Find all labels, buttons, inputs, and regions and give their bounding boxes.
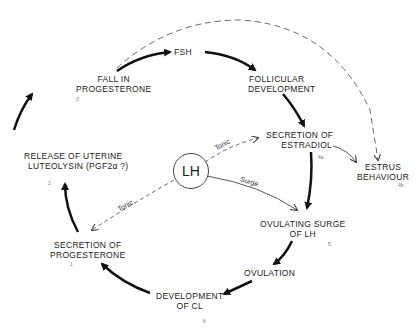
arrow-progesterone-to-luteolysin: [65, 184, 78, 232]
node-ovulation-label: OVULATION: [244, 268, 295, 278]
estradiol-to-estrus: [333, 146, 356, 162]
node-development-of-cl: DEVELOPMENT OF CL: [156, 291, 224, 311]
node-follicular-line2: DEVELOPMENT: [238, 84, 316, 94]
node-ovulation: OVULATION: [244, 268, 295, 278]
node-estrus-line1: ESTRUS: [357, 162, 409, 172]
node-estradiol-line2: ESTRADIOL: [266, 140, 333, 150]
lh-center-node: LH: [173, 153, 209, 189]
node-progesterone-number: 1: [70, 261, 73, 267]
node-estrus-behaviour: ESTRUS BEHAVIOUR: [357, 162, 409, 182]
arrow-surge-to-ovulation: [274, 241, 292, 264]
arrow-follicular-to-estradiol: [283, 94, 304, 126]
node-ovulating-surge: OVULATING SURGE OF LH: [260, 219, 346, 239]
node-cl-line2: OF CL: [156, 301, 224, 311]
node-estradiol-line1: SECRETION OF: [266, 130, 333, 140]
tonic-to-estradiol: [205, 138, 258, 162]
node-luteolysin-line2: LUTEOLYSIN (PGF2α ?): [18, 161, 129, 171]
node-fall-line1: FALL IN: [76, 74, 151, 84]
node-luteolysin-number: 2: [48, 180, 51, 186]
arrow-estradiol-to-surge: [307, 152, 312, 208]
node-release-of-luteolysin: RELEASE OF UTERINE LUTEOLYSIN (PGF2α ?): [18, 151, 129, 171]
node-fall-number: 3: [76, 96, 79, 102]
node-fall-in-progesterone: FALL IN PROGESTERONE: [76, 74, 151, 94]
node-secretion-of-estradiol: SECRETION OF ESTRADIOL: [266, 130, 333, 150]
node-surge-number: 5: [328, 241, 331, 247]
node-follicular-line1: FOLLICULAR: [238, 74, 316, 84]
lh-label: LH: [182, 163, 200, 179]
node-secretion-of-progesterone: SECRETION OF PROGESTERONE: [50, 240, 125, 260]
node-progesterone-line2: PROGESTERONE: [50, 250, 125, 260]
node-luteolysin-line1: RELEASE OF UTERINE: [18, 151, 129, 161]
node-estradiol-number: 4a: [318, 154, 324, 160]
node-progesterone-line1: SECRETION OF: [50, 240, 125, 250]
arrow-fsh-to-follicular: [205, 52, 255, 70]
node-estrus-line2: BEHAVIOUR: [357, 172, 409, 182]
arrow-luteolysin-to-fall: [14, 94, 32, 130]
node-surge-line2: OF LH: [260, 229, 346, 239]
arrow-cl-to-progesterone: [102, 264, 150, 293]
node-surge-line1: OVULATING SURGE: [260, 219, 346, 229]
arrow-ovulation-to-cl: [224, 281, 252, 294]
node-fsh: FSH: [174, 47, 192, 57]
node-fsh-label: FSH: [174, 47, 192, 57]
node-follicular-development: FOLLICULAR DEVELOPMENT: [238, 74, 316, 94]
node-fall-line2: PROGESTERONE: [76, 84, 151, 94]
node-cl-number: 6: [203, 318, 206, 324]
node-estrus-number: 4b: [398, 182, 404, 188]
node-cl-line1: DEVELOPMENT: [156, 291, 224, 301]
